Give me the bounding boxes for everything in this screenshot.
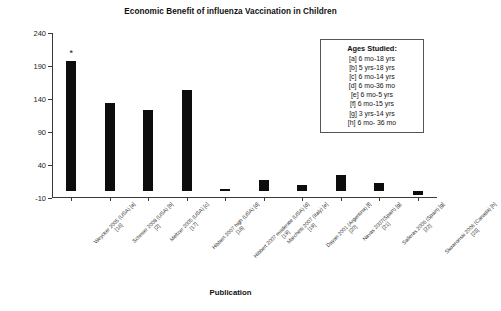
x-axis-tick xyxy=(71,198,72,201)
x-axis-tick xyxy=(148,198,149,201)
legend-items: [a] 6 mo-18 yrs[b] 5 yrs-18 yrs[c] 6 mo-… xyxy=(324,54,420,127)
bar xyxy=(182,90,192,192)
x-axis-tick xyxy=(341,198,342,201)
y-axis-tick-label: 190 xyxy=(33,62,46,71)
y-axis-tick xyxy=(48,99,52,100)
y-axis-tick-label: 90 xyxy=(38,128,46,137)
bar xyxy=(220,189,230,191)
legend-item: [c] 6 mo-14 yrs xyxy=(324,72,420,81)
legend-title: Ages Studied: xyxy=(324,44,420,53)
bar xyxy=(374,183,384,191)
x-axis-title: Publication xyxy=(0,288,461,297)
x-axis-label: Skowronski 2006 (Canada) [h][23] xyxy=(443,201,501,259)
y-axis-tick-label: 240 xyxy=(33,29,46,38)
y-axis-tick xyxy=(48,66,52,67)
x-axis-tick xyxy=(379,198,380,201)
legend-item: [h] 6 mo- 36 mo xyxy=(324,118,420,127)
legend-box: Ages Studied: [a] 6 mo-18 yrs[b] 5 yrs-1… xyxy=(320,39,424,133)
x-axis-label: Salleras 2006 (Spain) [g][22] xyxy=(401,201,450,250)
y-axis-tick xyxy=(48,165,52,166)
legend-item: [a] 6 mo-18 yrs xyxy=(324,54,420,63)
chart-title: Economic Benefit of influenza Vaccinatio… xyxy=(0,7,461,16)
bar xyxy=(259,180,269,192)
legend-item: [b] 5 yrs-18 yrs xyxy=(324,63,420,72)
x-axis-tick xyxy=(110,198,111,201)
bar xyxy=(143,110,153,192)
y-axis-tick xyxy=(48,33,52,34)
x-axis-tick xyxy=(302,198,303,201)
x-axis-label: Hibbert 2007 high (USA) [d][18] xyxy=(210,201,264,255)
bar-annotation-asterisk: * xyxy=(69,49,73,58)
x-axis-tick xyxy=(264,198,265,201)
bar xyxy=(105,103,115,191)
legend-item: [g] 3 yrs-14 yrs xyxy=(324,109,420,118)
y-axis-tick-label: -10 xyxy=(35,194,46,203)
y-axis-tick-label: 140 xyxy=(33,95,46,104)
x-axis-tick xyxy=(225,198,226,201)
legend-item: [e] 6 mo-5 yrs xyxy=(324,90,420,99)
bar xyxy=(413,191,423,194)
legend-item: [d] 6 mo-36 mo xyxy=(324,81,420,90)
bar xyxy=(297,185,307,192)
x-axis-tick xyxy=(418,198,419,201)
y-axis-tick-label: 40 xyxy=(38,161,46,170)
bar xyxy=(336,175,346,192)
y-axis-line xyxy=(52,33,53,198)
legend-item: [f] 6 mo-15 yrs xyxy=(324,99,420,108)
bar xyxy=(66,61,76,191)
y-axis-tick xyxy=(48,198,52,199)
x-axis-tick xyxy=(187,198,188,201)
y-axis-tick xyxy=(48,132,52,133)
